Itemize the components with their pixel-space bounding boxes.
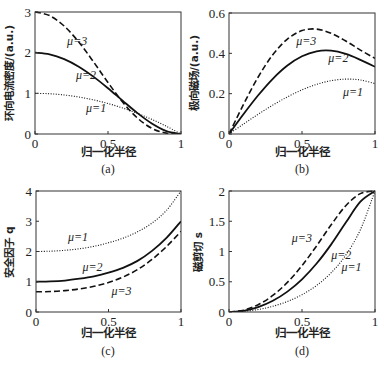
panel-c-ylabel: 安全因子 q: [3, 226, 15, 277]
series-label-mu-2: μ=2: [81, 260, 102, 274]
y-tick-label: 3: [26, 214, 33, 229]
x-tick-label: 0.5: [294, 136, 310, 151]
series-line-mu-1: [229, 191, 375, 312]
y-tick-label: 0.4: [209, 46, 226, 61]
series-label-mu-3: μ=3: [291, 231, 312, 245]
y-tick-label: 2: [26, 244, 33, 259]
x-tick-label: 1: [372, 136, 379, 151]
y-tick-label: 3: [25, 5, 32, 20]
panel-a: 归一化半径 (a) 环向电流密度/(a.u.) μ=1μ=2μ=300.5101…: [3, 5, 184, 177]
y-tick-label: 1.5: [209, 214, 225, 229]
panel-c-axes-box: [36, 191, 181, 312]
x-tick-label: 0.5: [100, 136, 116, 151]
panel-d-caption: (d): [295, 344, 309, 358]
x-tick-label: 1: [178, 136, 185, 151]
panel-b-ylabel: 极向磁场/(a.u.): [188, 35, 200, 111]
y-tick-label: 0.6: [209, 6, 226, 21]
y-tick-label: 2: [219, 184, 226, 199]
panel-a-curves: [35, 12, 181, 134]
y-tick-label: 0: [25, 127, 32, 142]
series-label-mu-3: μ=3: [66, 34, 87, 48]
x-tick-label: 1: [178, 314, 185, 329]
series-label-mu-2: μ=2: [330, 248, 351, 262]
series-label-mu-3: μ=3: [110, 284, 131, 298]
panel-a-caption: (a): [101, 162, 114, 176]
panel-a-axes-box: [35, 12, 181, 134]
y-tick-label: 2: [25, 45, 32, 60]
series-label-mu-1: μ=1: [342, 85, 363, 99]
panel-b: 归一化半径 (b) 极向磁场/(a.u.) μ=1μ=2μ=300.5100.2…: [188, 6, 378, 177]
panel-d-axes-box: [229, 191, 375, 312]
series-line-mu-2: [229, 191, 375, 312]
y-tick-label: 1: [26, 274, 33, 289]
x-tick-label: 0: [226, 314, 233, 329]
panel-d-curves: [229, 191, 375, 312]
y-tick-label: 0: [26, 305, 33, 320]
y-tick-label: 1: [219, 244, 226, 259]
x-tick-label: 1: [372, 314, 379, 329]
series-label-mu-1: μ=1: [67, 230, 88, 244]
x-tick-label: 0.5: [294, 314, 310, 329]
panel-d: 归一化半径 (d) 磁剪切 s μ=1μ=2μ=300.5100.511.52: [192, 184, 378, 359]
series-label-mu-3: μ=3: [295, 34, 316, 48]
x-tick-label: 0: [226, 136, 233, 151]
series-line-mu-2: [35, 53, 181, 134]
series-line-mu-3: [229, 191, 375, 312]
series-line-mu-1: [36, 191, 181, 252]
panel-b-caption: (b): [295, 162, 309, 176]
series-line-mu-3: [35, 12, 181, 134]
y-tick-label: 0.2: [209, 86, 225, 101]
panel-d-ylabel: 磁剪切 s: [192, 232, 204, 272]
y-tick-label: 1: [25, 86, 32, 101]
y-tick-label: 0: [219, 305, 226, 320]
y-tick-label: 4: [26, 184, 33, 199]
series-line-mu-3: [36, 231, 181, 292]
panel-c-caption: (c): [101, 344, 114, 358]
panel-c-curves: [36, 191, 181, 292]
x-tick-label: 0.5: [100, 314, 116, 329]
x-tick-label: 0: [33, 314, 40, 329]
series-label-mu-2: μ=2: [327, 51, 348, 65]
figure-4-panel-chart: 归一化半径 (a) 环向电流密度/(a.u.) μ=1μ=2μ=300.5101…: [0, 0, 385, 365]
panel-a-ylabel: 环向电流密度/(a.u.): [3, 25, 15, 121]
series-label-mu-2: μ=2: [75, 68, 96, 82]
panel-c: 归一化半径 (c) 安全因子 q μ=1μ=2μ=300.5101234: [3, 184, 184, 359]
x-tick-label: 0: [32, 136, 39, 151]
y-tick-label: 0: [219, 127, 226, 142]
series-label-mu-1: μ=1: [85, 101, 106, 115]
y-tick-label: 0.5: [209, 274, 225, 289]
series-line-mu-2: [36, 221, 181, 282]
